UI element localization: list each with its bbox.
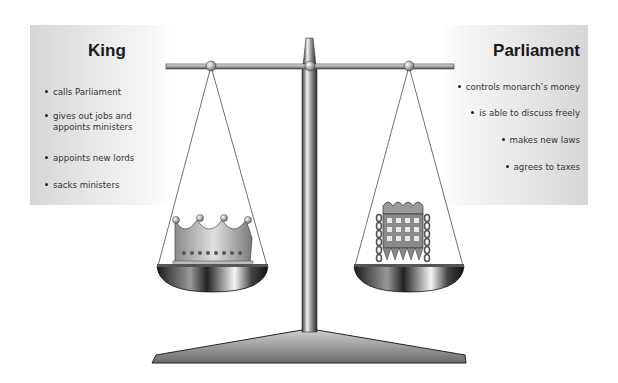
pivot-center <box>305 61 315 71</box>
scale-pole <box>302 38 317 332</box>
crown-icon <box>173 215 254 266</box>
scale-base <box>152 330 466 363</box>
scale-beam <box>166 61 454 71</box>
pivot-right <box>404 61 414 71</box>
portcullis-icon <box>377 202 430 262</box>
left-pan <box>157 264 268 292</box>
balance-scale <box>0 0 618 383</box>
right-pan <box>354 264 464 292</box>
pivot-left <box>206 61 216 71</box>
